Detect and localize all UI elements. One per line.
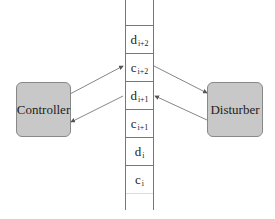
tape-cell-empty — [126, 193, 153, 210]
controller-box: Controller — [16, 82, 71, 137]
tape-cell: di+2 — [126, 25, 153, 53]
disturber-box: Disturber — [207, 82, 263, 137]
tape-cell: ci — [126, 165, 153, 193]
tape-cell: ci+2 — [126, 53, 153, 81]
cell-subscript: i+1 — [138, 123, 149, 132]
cell-subscript: i — [142, 151, 144, 160]
arrow-controller-to-tape — [70, 66, 123, 94]
cell-subscript: i+1 — [138, 95, 149, 104]
tape-cell: ci+1 — [126, 109, 153, 137]
cell-subscript: i+2 — [138, 39, 149, 48]
tape-cell: di — [126, 137, 153, 165]
cell-subscript: i — [142, 179, 144, 188]
cell-symbol: c — [135, 172, 141, 188]
cell-symbol: c — [131, 60, 137, 76]
tape-cell: di+1 — [126, 81, 153, 109]
cell-symbol: c — [131, 116, 137, 132]
cell-symbol: d — [130, 88, 137, 104]
arrow-tape-to-controller — [71, 96, 123, 122]
controller-label: Controller — [17, 102, 70, 118]
arrow-disturber-to-tape — [155, 96, 207, 120]
cell-subscript: i+2 — [138, 67, 149, 76]
cell-symbol: d — [135, 144, 142, 160]
disturber-label: Disturber — [210, 102, 259, 118]
cell-symbol: d — [130, 32, 137, 48]
tape: di+2 ci+2 di+1 ci+1 di ci — [125, 0, 154, 210]
arrow-tape-to-disturber — [154, 66, 207, 93]
